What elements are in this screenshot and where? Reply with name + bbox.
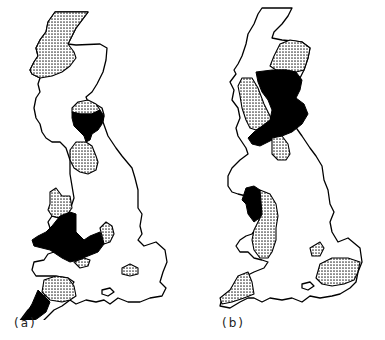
region-dotted-cornwall	[220, 272, 254, 304]
panel-label-a: (a)	[14, 316, 37, 330]
panel-label-b: (b)	[222, 316, 245, 330]
map-panel-b	[192, 0, 385, 320]
map-panel-a	[0, 0, 192, 320]
